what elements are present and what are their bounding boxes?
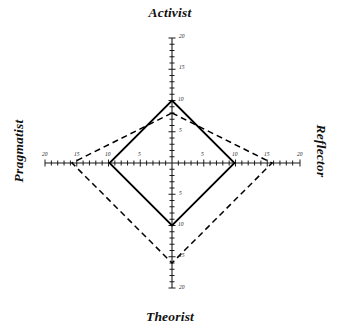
tick-label-reflector-15: 15 xyxy=(264,152,270,158)
tick-label-reflector-5: 5 xyxy=(201,152,204,158)
tick-label-theorist-15: 15 xyxy=(179,253,185,259)
tick-label-theorist-20: 20 xyxy=(179,285,185,291)
tick-label-theorist-5: 5 xyxy=(179,191,182,197)
axis-title-activist: Activist xyxy=(0,5,340,21)
tick-label-pragmatist-5: 5 xyxy=(138,152,141,158)
tick-label-activist-5: 5 xyxy=(179,128,182,134)
tick-label-reflector-20: 20 xyxy=(297,152,303,158)
radar-chart-figure: Activist Theorist Pragmatist Reflector 2… xyxy=(0,0,340,329)
tick-label-pragmatist-20: 20 xyxy=(42,152,48,158)
tick-label-activist-10: 10 xyxy=(178,97,184,103)
tick-label-activist-15: 15 xyxy=(179,65,185,71)
axis-title-reflector: Reflector xyxy=(313,101,329,201)
tick-label-pragmatist-15: 15 xyxy=(74,152,80,158)
tick-label-reflector-10: 10 xyxy=(232,152,238,158)
tick-label-theorist-10: 10 xyxy=(178,222,184,228)
tick-label-activist-20: 20 xyxy=(179,34,185,40)
axis-title-theorist: Theorist xyxy=(0,309,340,325)
tick-label-pragmatist-10: 10 xyxy=(105,152,111,158)
radar-plot-canvas xyxy=(0,0,340,329)
axis-title-pragmatist: Pragmatist xyxy=(11,101,27,201)
